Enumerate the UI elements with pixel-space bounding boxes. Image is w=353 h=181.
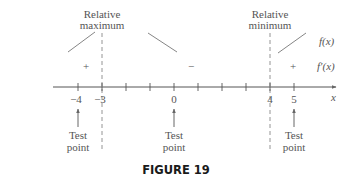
function-row-label: f(x) — [319, 35, 335, 48]
tick-label-neg4: −4 — [70, 93, 82, 105]
sign-plus: + — [290, 60, 296, 72]
svg-text:Test: Test — [165, 129, 183, 141]
relative-maximum-label: Relative maximum — [80, 8, 125, 31]
tick-label-4: 4 — [267, 93, 273, 105]
sign-minus: − — [188, 60, 194, 72]
svg-text:point: point — [67, 141, 90, 153]
sign-chart-diagram: Relative maximum Relative minimum + − + … — [0, 0, 353, 181]
tick-label-5: 5 — [291, 93, 297, 105]
relative-minimum-label: Relative minimum — [249, 8, 292, 31]
x-axis-label: x — [330, 91, 336, 103]
figure-caption: FIGURE 19 — [142, 163, 210, 177]
test-point-label-neg4: Test point — [67, 129, 90, 153]
tick-label-0: 0 — [171, 93, 177, 105]
svg-text:Test: Test — [285, 129, 303, 141]
decreasing-trend-icon — [148, 33, 177, 52]
sign-plus: + — [83, 60, 89, 72]
tick-label-neg3: −3 — [94, 93, 106, 105]
svg-text:point: point — [283, 141, 306, 153]
svg-text:Test: Test — [69, 129, 87, 141]
test-point-label-0: Test point — [163, 129, 186, 153]
svg-text:minimum: minimum — [249, 19, 292, 31]
svg-text:point: point — [163, 141, 186, 153]
svg-text:maximum: maximum — [80, 19, 125, 31]
test-point-label-5: Test point — [283, 129, 306, 153]
increasing-trend-icon — [278, 33, 306, 53]
derivative-row-label: f′(x) — [317, 60, 335, 73]
increasing-trend-icon — [68, 32, 95, 52]
